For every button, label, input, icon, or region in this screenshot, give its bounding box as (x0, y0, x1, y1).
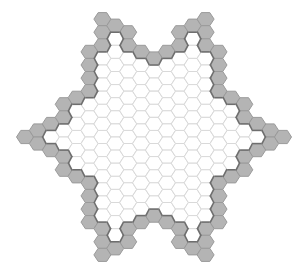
hex-star-board (0, 0, 308, 280)
wall-hex (197, 248, 214, 261)
wall-hex (197, 13, 214, 26)
wall-hex (275, 130, 292, 143)
